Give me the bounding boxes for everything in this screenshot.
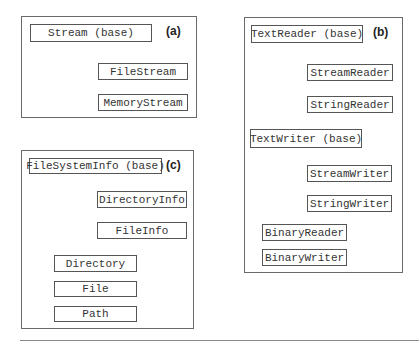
- directoryinfo-box: DirectoryInfo: [97, 191, 187, 208]
- fileinfo-box: FileInfo: [97, 222, 187, 239]
- textwriter-base-box: TextWriter (base): [250, 129, 362, 148]
- filesysteminfo-base-box: FileSystemInfo (base): [29, 158, 162, 174]
- stream-base-box: Stream (base): [30, 24, 152, 42]
- textreader-base-box: TextReader (base): [251, 25, 363, 43]
- panel-c-filesystem: [21, 150, 194, 329]
- stringreader-box: StringReader: [307, 96, 393, 113]
- filestream-box: FileStream: [98, 63, 188, 80]
- panel-c-label: (c): [166, 158, 181, 172]
- directory-box: Directory: [54, 255, 137, 272]
- binarywriter-box: BinaryWriter: [262, 249, 347, 266]
- panel-a-label: (a): [166, 24, 181, 38]
- horizontal-rule: [20, 340, 419, 341]
- streamreader-box: StreamReader: [307, 64, 393, 81]
- memorystream-box: MemoryStream: [98, 94, 188, 111]
- panel-b-label: (b): [373, 25, 388, 39]
- file-box: File: [54, 281, 137, 297]
- path-box: Path: [54, 306, 137, 322]
- binaryreader-box: BinaryReader: [262, 224, 347, 241]
- stringwriter-box: StringWriter: [307, 195, 392, 212]
- streamwriter-box: StreamWriter: [307, 165, 392, 182]
